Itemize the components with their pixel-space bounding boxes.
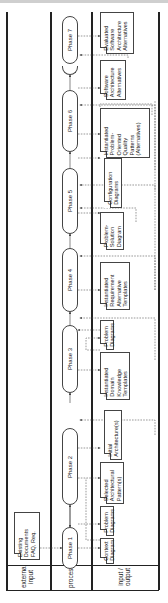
- artifact-text: Instantiated Requirement Alternative Tem…: [103, 275, 129, 307]
- phase-3-label: Phase 3: [67, 348, 73, 370]
- artifact-evaluated-software-architecture-alternatives: Evaluated Software Architecture Alternat…: [100, 12, 134, 54]
- artifact-problem-diagrams-1: Problem Diagrams: [100, 506, 114, 536]
- phase-5[interactable]: Phase 5: [62, 168, 78, 234]
- external-input-doc: Existing Documents FAQ, Req.: [14, 512, 40, 560]
- phase-7-label: Phase 7: [67, 29, 73, 51]
- artifact-text: Initial Architecture(s): [107, 421, 120, 457]
- artifact-problem-diagrams-2: Problem Diagrams: [100, 320, 114, 350]
- artifact-text: Problem Diagrams: [103, 323, 116, 347]
- phase-6[interactable]: Phase 6: [62, 90, 78, 152]
- phase-6-label: Phase 6: [67, 110, 73, 132]
- phase-4[interactable]: Phase 4: [62, 248, 78, 312]
- artifact-software-architecture-alternatives: Software Architecture Alternatives: [100, 60, 126, 100]
- artifact-text: Instantiated Domain Knowledge Templates: [103, 368, 129, 397]
- artifact-instantiated-requirement-alternative-templates: Instantiated Requirement Alternative Tem…: [100, 262, 130, 310]
- external-input-text: Existing Documents FAQ, Req.: [17, 529, 36, 557]
- artifact-text: Instantiated Problem- Oriented Quality P…: [103, 122, 141, 155]
- artifact-text: Configuration Diagrams: [107, 172, 120, 205]
- artifact-text: Problem Diagrams: [103, 509, 116, 533]
- phase-1-label: Phase 1: [67, 537, 73, 559]
- artifact-problem-solution-diagram: Problem- Solution Diagram: [100, 212, 124, 250]
- phase-1[interactable]: Phase 1: [62, 527, 78, 569]
- phase-7-body[interactable]: Phase 7: [62, 16, 78, 64]
- artifact-text: Selected Architectural Pattern(s): [103, 470, 122, 501]
- artifact-text: Software Architecture Alternatives: [103, 67, 122, 97]
- phase-4-label: Phase 4: [67, 269, 73, 291]
- artifact-instantiated-domain-knowledge-templates: Instantiated Domain Knowledge Templates: [100, 352, 130, 400]
- artifact-text: Evaluated Software Architecture Alternat…: [103, 21, 129, 51]
- artifact-selected-architectural-patterns: Selected Architectural Pattern(s): [100, 462, 124, 504]
- artifact-initial-architectures: Initial Architecture(s): [104, 410, 122, 460]
- artifact-text: Problem- Solution Diagram: [103, 224, 122, 247]
- artifact-configuration-diagrams: Configuration Diagrams: [104, 158, 122, 208]
- phase-5-label: Phase 5: [67, 190, 73, 212]
- phase-2-label: Phase 2: [67, 455, 73, 477]
- phase-2[interactable]: Phase 2: [62, 428, 78, 505]
- artifact-text: Context Diagram: [103, 540, 116, 561]
- phase-3[interactable]: Phase 3: [62, 325, 78, 393]
- artifact-context-diagram: Context Diagram: [100, 538, 114, 564]
- artifact-instantiated-problem-oriented-quality-patterns: Instantiated Problem- Oriented Quality P…: [100, 108, 150, 158]
